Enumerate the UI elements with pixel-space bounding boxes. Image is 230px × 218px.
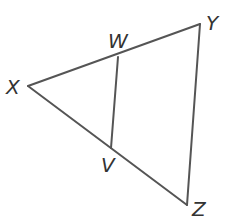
label-w: W	[108, 29, 129, 53]
label-x: X	[5, 75, 21, 99]
geometry-diagram: X W Y V Z	[0, 0, 230, 218]
label-y: Y	[206, 11, 220, 35]
segment-yz	[187, 24, 200, 205]
segment-xz	[28, 86, 187, 205]
label-v: V	[101, 153, 116, 177]
segment-wv	[111, 57, 118, 148]
label-z: Z	[191, 197, 207, 218]
